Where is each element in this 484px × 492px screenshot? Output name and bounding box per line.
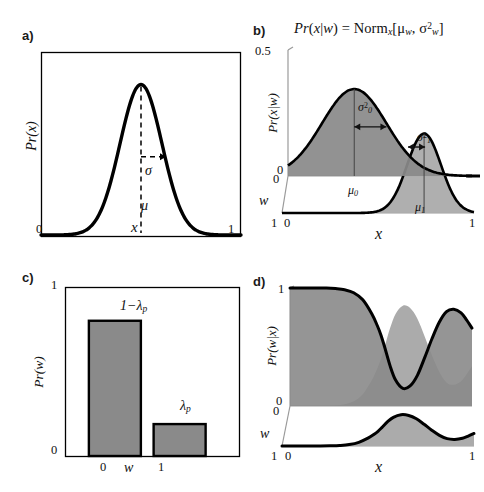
panel-d-waxis: [282, 406, 290, 446]
panel-c-ytick-top: 1: [51, 278, 57, 293]
panel-c-xtick-1: 1: [158, 460, 164, 475]
panel-a-mu-annotation: μ: [141, 198, 148, 214]
panel-b: b) Pr(x|w) = Normx[μw, σ2w] 0.5 0 0 Pr(x…: [242, 0, 484, 246]
panel-b-sigma1-label: σ21: [417, 130, 431, 145]
panel-a: a) Pr(x) 0 1 x μ σ: [0, 0, 242, 246]
panel-c-bar-1: [154, 424, 206, 456]
panel-b-ytick-top-mark: [288, 47, 293, 50]
panel-c-plot: [65, 287, 240, 457]
panel-c-xlabel: w: [124, 460, 133, 476]
figure-root: a) Pr(x) 0 1 x μ σ b) Pr(x|w) = Normx[μw…: [0, 0, 484, 492]
panel-c-bar1-label: λp: [180, 398, 191, 414]
panel-b-sigma1-arrow-head-left: [408, 144, 414, 151]
panel-d-plot: [242, 246, 484, 492]
panel-b-waxis: [282, 176, 288, 213]
panel-c-ylabel: Pr(w): [31, 337, 47, 407]
panel-c-ytick-bottom: 0: [51, 443, 57, 458]
panel-a-xtick-1: 1: [228, 222, 234, 237]
panel-b-sigma0-label: σ20: [358, 100, 372, 115]
panel-c-bar-0: [89, 321, 141, 456]
panel-a-label: a): [22, 28, 34, 43]
panel-c-xtick-0: 0: [100, 460, 106, 475]
panel-d: d) 1 0 0 Pr(w|x) w 1 0 1 x: [242, 246, 484, 492]
panel-b-mu0-label: μ0: [348, 183, 358, 198]
panel-a-sigma-annotation: σ: [145, 163, 152, 179]
panel-b-plot: [242, 0, 484, 246]
panel-c-bar0-label: 1−λp: [120, 298, 147, 314]
panel-c-label: c): [22, 270, 34, 285]
panel-a-xlabel: x: [131, 219, 138, 236]
panel-a-xtick-0: 0: [36, 222, 42, 237]
panel-a-ylabel: Pr(x): [24, 103, 40, 169]
panel-d-posterior0-fill: [290, 288, 472, 406]
panel-b-mu1-label: μ1: [415, 200, 425, 215]
panel-c: c) 1 0 Pr(w) 0 1 w 1−λp λp: [0, 246, 242, 492]
